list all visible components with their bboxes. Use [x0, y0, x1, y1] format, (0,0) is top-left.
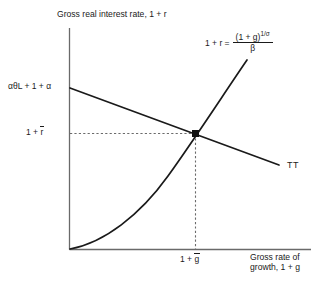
r-bar-overbar: r — [40, 127, 43, 137]
g-bar-overbar: g — [194, 254, 199, 264]
interest-rate-growth-diagram: Gross real interest rate, 1 + r Gross ra… — [0, 0, 329, 290]
interest-rate-equation-annotation: 1 + r = (1 + g)1/σ β — [205, 33, 273, 53]
x-axis-title: Gross rate of growth, 1 + g — [250, 252, 300, 273]
tt-curve-label: TT — [287, 160, 299, 171]
x-axis-equilibrium-tick-label: 1 + g — [180, 254, 199, 264]
equation-denominator: β — [247, 43, 258, 52]
interest-rate-curve — [70, 60, 247, 249]
equilibrium-point-marker — [192, 130, 199, 137]
equation-numerator: (1 + g)1/σ — [233, 33, 273, 42]
equation-left-hand-side: 1 + r = — [205, 38, 230, 48]
y-axis-equilibrium-tick-label: 1 + r — [26, 127, 43, 137]
plot-area — [0, 0, 329, 290]
y-axis-title: Gross real interest rate, 1 + r — [57, 9, 167, 19]
equation-numerator-base: (1 + g) — [236, 32, 261, 42]
equation-exponent: 1/σ — [260, 30, 269, 37]
equation-fraction: (1 + g)1/σ β — [233, 33, 273, 53]
tt-curve — [70, 88, 279, 165]
y-intercept-label: αθL + 1 + α — [8, 81, 51, 91]
